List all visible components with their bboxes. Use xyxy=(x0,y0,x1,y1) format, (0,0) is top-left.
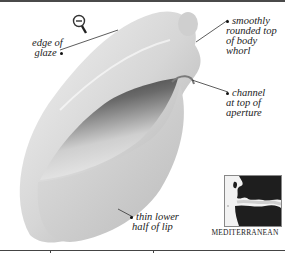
map-graphic xyxy=(225,176,281,226)
label-channel: channel at top of aperture xyxy=(226,88,265,118)
leader-dot xyxy=(226,20,229,23)
label-smoothly-rounded: smoothly rounded top of body whorl xyxy=(226,16,277,56)
leader-dot xyxy=(130,216,133,219)
label-line: half of lip xyxy=(130,222,179,232)
label-line: whorl xyxy=(226,46,277,56)
leader-dot xyxy=(60,52,63,55)
locator-map xyxy=(224,175,282,227)
label-thin-lower: thin lower half of lip xyxy=(130,212,179,232)
label-edge-of-glaze: edge of glaze xyxy=(32,38,63,58)
map-caption: MEDITERRANEAN xyxy=(205,228,285,237)
label-line: aperture xyxy=(226,108,265,118)
label-line: glaze xyxy=(32,48,63,58)
magnifier-minus-icon xyxy=(72,14,88,36)
bottom-rule xyxy=(0,250,285,251)
leader-dot xyxy=(226,92,229,95)
